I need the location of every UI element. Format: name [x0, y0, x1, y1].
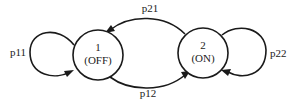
label-p11: p11 [10, 46, 26, 58]
edge-p11 [30, 32, 74, 75]
label-p12: p12 [140, 87, 157, 99]
arrow-p22 [221, 69, 231, 76]
edge-p21 [110, 18, 185, 34]
state-1-label: 1 [95, 41, 101, 53]
state-2-sublabel: (ON) [191, 52, 215, 65]
state-1-sublabel: (OFF) [84, 54, 112, 67]
arrow-p11 [64, 70, 74, 77]
state-diagram: 1 (OFF) 2 (ON) p11 p12 p21 p22 [0, 0, 300, 102]
state-2-label: 2 [200, 39, 206, 51]
label-p22: p22 [270, 47, 287, 59]
label-p21: p21 [142, 2, 159, 14]
